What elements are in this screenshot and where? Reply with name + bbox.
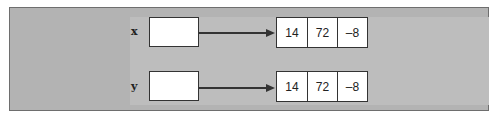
array-x: 14 72 –8: [276, 17, 368, 48]
arrowhead-icon: [266, 84, 275, 92]
array-cell: 72: [307, 72, 337, 101]
array-cell: 72: [307, 18, 337, 47]
pointer-box-y: [149, 71, 199, 101]
array-cell: –8: [337, 18, 367, 47]
arrow-line-y: [199, 87, 267, 89]
variable-label-y: y: [131, 80, 137, 93]
array-cell: 14: [277, 18, 307, 47]
array-y: 14 72 –8: [276, 71, 368, 102]
diagram-panel: [9, 7, 489, 111]
arrow-line-x: [199, 32, 267, 34]
pointer-box-x: [149, 17, 199, 47]
array-cell: 14: [277, 72, 307, 101]
arrowhead-icon: [266, 29, 275, 37]
variable-label-x: x: [131, 25, 138, 38]
array-cell: –8: [337, 72, 367, 101]
